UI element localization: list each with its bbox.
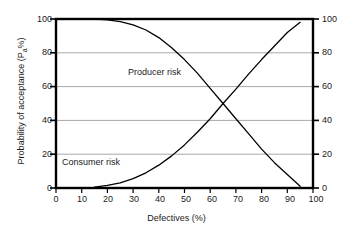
- series-producer-risk-curve: [56, 19, 300, 186]
- chart-figure: Probability of acceptance (Pa%) Defectiv…: [0, 0, 353, 239]
- series-consumer-risk-curve: [95, 22, 301, 187]
- plot-canvas: [0, 0, 353, 239]
- gridlines: [56, 53, 313, 154]
